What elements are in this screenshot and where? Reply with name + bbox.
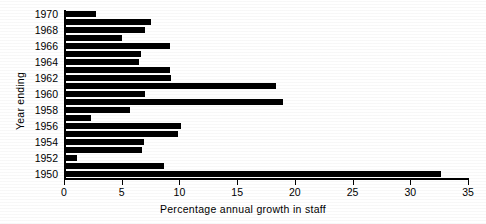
bar-1954 (64, 139, 144, 145)
y-tick-label-1950: 1950 (35, 169, 58, 179)
y-tick-label-1954: 1954 (35, 137, 58, 147)
x-tick-15 (237, 180, 238, 185)
bar-1957 (64, 115, 91, 121)
x-tick-0 (64, 180, 65, 185)
y-tick-label-1958: 1958 (35, 105, 58, 115)
x-tick-label-25: 25 (338, 186, 368, 198)
bar-1966 (64, 43, 170, 49)
x-tick-label-35: 35 (453, 186, 483, 198)
y-tick-label-1952: 1952 (35, 153, 58, 163)
x-tick-label-30: 30 (395, 186, 425, 198)
x-tick-label-15: 15 (222, 186, 252, 198)
x-tick-10 (179, 180, 180, 185)
bar-1960 (64, 91, 145, 97)
x-tick-label-20: 20 (280, 186, 310, 198)
bar-1970 (64, 11, 96, 17)
bar-1956 (64, 123, 181, 129)
bar-1955 (64, 131, 178, 137)
bar-1950 (64, 171, 441, 177)
x-tick-label-5: 5 (107, 186, 137, 198)
bar-1968 (64, 27, 145, 33)
bar-1969 (64, 19, 151, 25)
bar-1962 (64, 75, 171, 81)
bar-1961 (64, 83, 276, 89)
y-tick-label-1964: 1964 (35, 57, 58, 67)
bar-1959 (64, 99, 283, 105)
x-tick-30 (410, 180, 411, 185)
x-tick-25 (353, 180, 354, 185)
bar-chart-figure: Year ending 1970196819661964196219601958… (0, 0, 486, 224)
y-tick-label-1962: 1962 (35, 73, 58, 83)
bar-1951 (64, 163, 164, 169)
bar-1967 (64, 35, 122, 41)
x-axis-line (64, 178, 469, 180)
x-tick-5 (122, 180, 123, 185)
x-tick-label-10: 10 (164, 186, 194, 198)
bar-1964 (64, 59, 139, 65)
bar-1963 (64, 67, 170, 73)
y-tick-label-1966: 1966 (35, 41, 58, 51)
x-tick-label-0: 0 (49, 186, 79, 198)
bar-1965 (64, 51, 141, 57)
y-tick-label-1960: 1960 (35, 89, 58, 99)
plot-area (64, 10, 468, 178)
x-tick-20 (295, 180, 296, 185)
y-tick-label-1956: 1956 (35, 121, 58, 131)
bar-1953 (64, 147, 142, 153)
x-axis-title: Percentage annual growth in staff (0, 203, 486, 215)
x-tick-35 (468, 180, 469, 185)
bar-1952 (64, 155, 77, 161)
y-tick-label-1970: 1970 (35, 9, 58, 19)
bar-1958 (64, 107, 130, 113)
y-tick-label-1968: 1968 (35, 25, 58, 35)
